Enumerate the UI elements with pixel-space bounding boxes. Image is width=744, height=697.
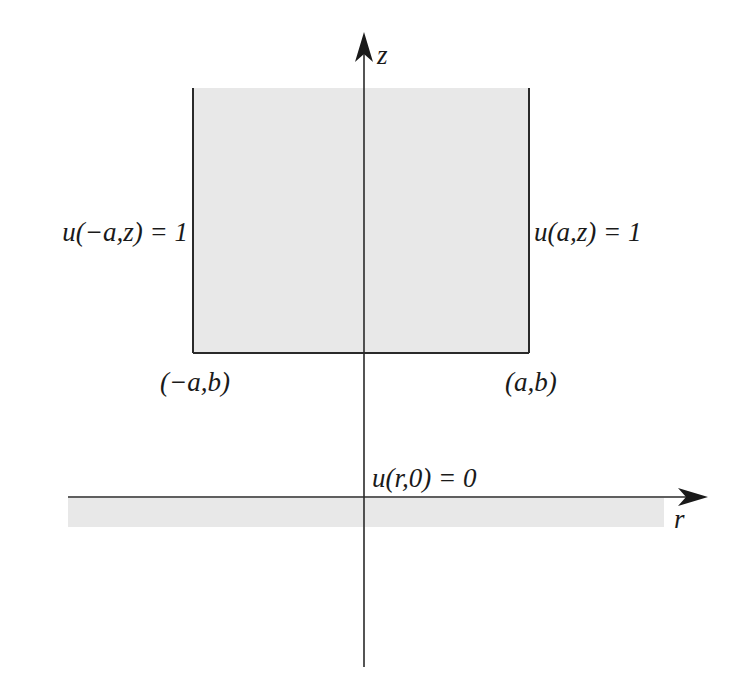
left-boundary-label: u(−a,z) = 1 [62,217,188,247]
upper-region [193,88,529,353]
lower-strip [68,498,664,527]
z-axis-label: z [376,40,388,70]
r-axis-label: r [674,504,685,534]
corner-label-left: (−a,b) [160,367,230,397]
corner-label-right: (a,b) [505,367,557,397]
bottom-boundary-label: u(r,0) = 0 [372,463,477,493]
diagram-canvas: z r u(−a,z) = 1 u(a,z) = 1 (−a,b) (a,b) … [0,0,744,697]
right-boundary-label: u(a,z) = 1 [534,217,641,247]
